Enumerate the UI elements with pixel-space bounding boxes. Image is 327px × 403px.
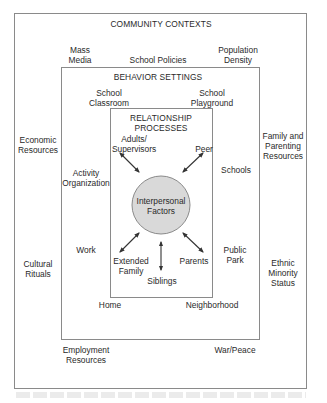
arrow-extended-family	[120, 233, 139, 252]
label-interpersonal-factors: Interpersonal Factors	[137, 196, 186, 216]
arrow-adults-supervisors	[120, 153, 139, 172]
arrow-peer	[183, 153, 203, 172]
arrow-parents	[183, 233, 203, 252]
faded-caption	[16, 392, 306, 398]
